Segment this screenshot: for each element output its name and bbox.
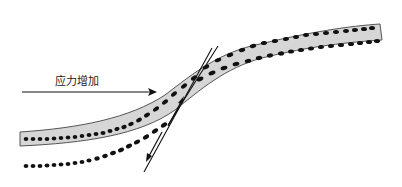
stress-increase-label: 应力增加 bbox=[55, 72, 99, 88]
stress-arrow bbox=[22, 88, 157, 96]
lower-dotted-row bbox=[24, 39, 380, 168]
slip-arrow-down-icon bbox=[146, 153, 152, 162]
fault-stress-diagram bbox=[0, 0, 402, 187]
